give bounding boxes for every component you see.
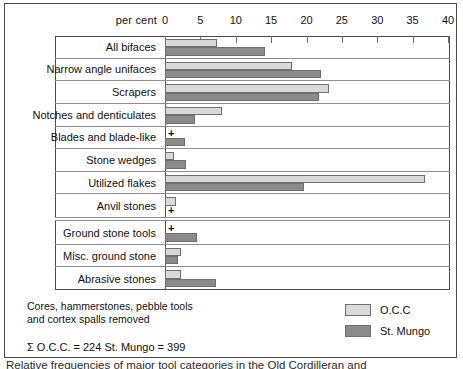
group-separator <box>55 217 450 221</box>
x-tick-label-25: 25 <box>336 14 348 26</box>
bar-mungo <box>165 93 319 101</box>
legend-label-st-mungo: St. Mungo <box>380 325 430 337</box>
chart-row: All bifaces <box>55 36 450 59</box>
bar-occ <box>165 175 425 183</box>
bar-mungo <box>165 160 186 168</box>
legend-item-occ: O.C.C <box>345 304 430 316</box>
chart-row: Abrasive stones <box>55 267 450 290</box>
bar-mungo <box>165 279 216 287</box>
bar-mungo <box>165 256 178 264</box>
legend-label-occ: O.C.C <box>380 304 411 316</box>
totals-line: Σ O.C.C. = 224 St. Mungo = 399 <box>27 341 185 353</box>
category-label: Misc. ground stone <box>63 250 161 262</box>
bar-occ <box>165 152 174 160</box>
bar-mungo <box>165 115 195 123</box>
x-axis-unit-label: per cent <box>116 14 157 26</box>
x-tick-label-35: 35 <box>407 14 419 26</box>
chart-row: Scrapers <box>55 81 450 104</box>
bar-occ <box>165 84 329 92</box>
legend-swatch-st-mungo <box>345 325 371 337</box>
category-label: Ground stone tools <box>63 227 161 239</box>
category-label: Narrow angle unifaces <box>47 63 161 75</box>
category-label: Anvil stones <box>97 200 161 212</box>
figure-caption: Relative frequencies of major tool categ… <box>6 359 457 369</box>
category-label: Abrasive stones <box>78 273 161 285</box>
trace-plus-marker: + <box>168 205 174 216</box>
note-line-1: Cores, hammerstones, pebble tools <box>27 300 257 313</box>
chart-row: Anvil stones+ <box>55 194 450 217</box>
x-tick-label-40: 40 <box>442 14 454 26</box>
bar-mungo <box>165 233 197 241</box>
bar-occ <box>165 107 222 115</box>
category-label: All bifaces <box>106 41 161 53</box>
notes-block: Cores, hammerstones, pebble tools and co… <box>27 300 257 326</box>
plot-area: All bifacesNarrow angle unifacesScrapers… <box>55 36 450 290</box>
chart-row: Utilized flakes <box>55 172 450 195</box>
bar-occ <box>165 270 181 278</box>
x-tick-label-30: 30 <box>371 14 383 26</box>
x-tick-label-0: 0 <box>162 14 168 26</box>
chart-row: Stone wedges <box>55 149 450 172</box>
legend-swatch-occ <box>345 304 371 316</box>
legend-item-st-mungo: St. Mungo <box>345 325 430 337</box>
trace-plus-marker: + <box>168 223 174 234</box>
bar-occ <box>165 39 217 47</box>
category-label: Stone wedges <box>86 154 161 166</box>
chart-row: Notches and denticulates <box>55 104 450 127</box>
bar-mungo <box>165 70 321 78</box>
x-tick-label-15: 15 <box>265 14 277 26</box>
bar-mungo <box>165 47 265 55</box>
chart-row: Misc. ground stone <box>55 245 450 268</box>
x-axis-header: per cent 0510152025303540 <box>5 12 458 34</box>
figure-panel: per cent 0510152025303540 All bifacesNar… <box>4 3 457 358</box>
chart-row: Narrow angle unifaces <box>55 59 450 82</box>
category-label: Scrapers <box>112 86 161 98</box>
legend: O.C.C St. Mungo <box>345 304 430 346</box>
bar-mungo <box>165 138 185 146</box>
x-tick-label-10: 10 <box>230 14 242 26</box>
bar-occ <box>165 62 292 70</box>
category-label: Blades and blade-like <box>51 131 161 143</box>
category-label: Notches and denticulates <box>32 109 161 121</box>
trace-plus-marker: + <box>168 128 174 139</box>
category-label: Utilized flakes <box>88 177 161 189</box>
x-tick-label-5: 5 <box>197 14 203 26</box>
note-line-2: and cortex spalls removed <box>27 313 257 326</box>
bar-mungo <box>165 183 304 191</box>
chart-row: Ground stone tools+ <box>55 222 450 245</box>
bar-occ <box>165 248 181 256</box>
chart-row: Blades and blade-like+ <box>55 127 450 150</box>
x-tick-label-20: 20 <box>300 14 312 26</box>
